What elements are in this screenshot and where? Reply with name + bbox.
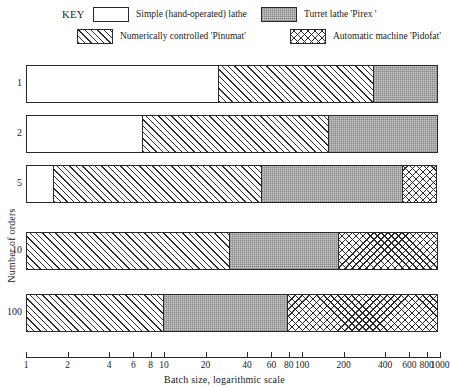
x-axis-tick-label: 200 (336, 361, 350, 371)
x-axis-tick (133, 352, 134, 358)
bar-row[interactable] (26, 165, 440, 203)
chart-legend: KEY Simple (hand-operated) latheTurret l… (0, 0, 449, 52)
legend-swatch-automatic-icon (290, 29, 326, 44)
x-axis-tick (344, 352, 345, 358)
x-axis-tick (289, 352, 290, 358)
x-axis-tick (409, 352, 410, 358)
legend-item-numerical[interactable]: Numerically controlled 'Pinumat' (77, 29, 246, 44)
bar-segment[interactable] (287, 294, 438, 332)
x-axis-title: Batch size, logarithmic scale (0, 374, 449, 385)
x-axis-line (26, 357, 440, 358)
bar-segment[interactable] (328, 115, 438, 153)
plot-area: Number of orders 12510100 (0, 52, 449, 352)
x-axis-tick (385, 352, 386, 358)
x-axis-tick (427, 352, 428, 358)
y-axis-tick-label: 2 (0, 128, 22, 138)
x-axis-tick-label: 8 (148, 361, 153, 371)
x-axis-tick (440, 352, 441, 358)
x-axis-tick-label: 2 (65, 361, 70, 371)
bar-segment[interactable] (261, 165, 403, 203)
y-axis-tick-label: 5 (0, 178, 22, 188)
bar-row[interactable] (26, 115, 440, 153)
x-axis-tick-label: 1000 (431, 361, 450, 371)
legend-swatch-numerical-icon (77, 29, 113, 44)
x-axis-tick-label: 40 (242, 361, 252, 371)
x-axis-tick-label: 1 (24, 361, 29, 371)
bar-segment[interactable] (26, 232, 230, 270)
x-axis-tick (164, 352, 165, 358)
x-axis-tick (109, 352, 110, 358)
x-axis-tick (68, 352, 69, 358)
legend-label-automatic: Automatic machine 'Pidofat' (333, 32, 441, 42)
y-axis-tick-label: 100 (0, 307, 22, 317)
legend-label-simple: Simple (hand-operated) lathe (136, 10, 247, 20)
bar-segment[interactable] (229, 232, 340, 270)
bar-row[interactable] (26, 65, 440, 103)
legend-swatch-simple-icon (93, 7, 129, 22)
x-axis-tick-label: 6 (131, 361, 136, 371)
x-axis-tick (206, 352, 207, 358)
x-axis-tick-label: 10 (159, 361, 169, 371)
bar-segment[interactable] (338, 232, 438, 270)
x-axis-tick-label: 4 (107, 361, 112, 371)
legend-item-turret[interactable]: Turret lathe 'Pirex ' (261, 7, 376, 22)
x-axis-tick (271, 352, 272, 358)
y-axis-tick-label: 1 (0, 78, 22, 88)
x-axis-tick-label: 400 (378, 361, 392, 371)
legend-item-automatic[interactable]: Automatic machine 'Pidofat' (290, 29, 441, 44)
bar-segment[interactable] (26, 65, 219, 103)
x-axis-tick-label: 20 (201, 361, 211, 371)
x-axis-tick-label: 600 (402, 361, 416, 371)
legend-label-numerical: Numerically controlled 'Pinumat' (120, 32, 246, 42)
y-axis-tick-label: 10 (0, 245, 22, 255)
x-axis-tick-label: 100 (295, 361, 309, 371)
bar-segment[interactable] (218, 65, 374, 103)
x-axis-tick-label: 60 (267, 361, 277, 371)
bar-segment[interactable] (26, 165, 54, 203)
x-axis: Batch size, logarithmic scale 1246810204… (0, 352, 449, 387)
bar-segment[interactable] (163, 294, 288, 332)
bar-segment[interactable] (402, 165, 437, 203)
x-axis-tick (151, 352, 152, 358)
bar-segment[interactable] (26, 115, 143, 153)
bar-segment[interactable] (26, 294, 164, 332)
x-axis-tick (26, 352, 27, 358)
bar-segment[interactable] (142, 115, 330, 153)
bar-segment[interactable] (373, 65, 438, 103)
legend-item-simple[interactable]: Simple (hand-operated) lathe (93, 7, 247, 22)
x-axis-tick (247, 352, 248, 358)
legend-key-label: KEY (62, 9, 85, 20)
legend-label-turret: Turret lathe 'Pirex ' (304, 10, 376, 20)
bar-row[interactable] (26, 232, 440, 270)
x-axis-tick-label: 80 (284, 361, 294, 371)
bar-row[interactable] (26, 294, 440, 332)
x-axis-tick (302, 352, 303, 358)
bar-segment[interactable] (53, 165, 262, 203)
legend-swatch-turret-icon (261, 7, 297, 22)
